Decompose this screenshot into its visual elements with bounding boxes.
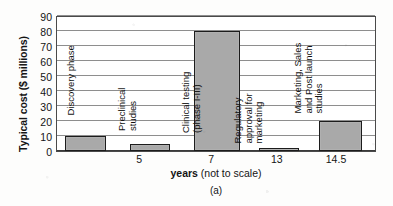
- y-tick-label-30: 30: [26, 102, 52, 113]
- y-tick-label-50: 50: [26, 72, 52, 83]
- y-tick-label-40: 40: [26, 87, 52, 98]
- x-axis-title-rest: (not to scale): [198, 167, 262, 179]
- bar-chart-figure: Typical cost ($ millions) 90807060504030…: [0, 0, 393, 206]
- bar-label-1: Preclinicalstudies: [117, 88, 138, 131]
- bar-label-4: Marketing, Salesand Post launchstudies: [293, 42, 325, 113]
- x-tick-label-14.5: 14.5: [326, 153, 346, 165]
- bar-label-2-line-0: Clinical testing: [181, 72, 192, 133]
- y-tick-label-70: 70: [26, 42, 52, 53]
- x-axis-tick-labels: 571314.5: [56, 153, 376, 167]
- y-tick-label-60: 60: [26, 57, 52, 68]
- bar-label-3-line-2: marketing: [253, 93, 264, 143]
- bar-label-0: Discovery phase: [66, 45, 77, 115]
- bar-label-1-line-1: studies: [128, 88, 139, 131]
- y-tick-label-80: 80: [26, 27, 52, 38]
- y-tick-label-20: 20: [26, 117, 52, 128]
- gridline-90: [57, 15, 375, 16]
- x-tick-label-5: 5: [136, 153, 142, 165]
- bar-label-2: Clinical testing(phase I-III): [181, 72, 202, 133]
- y-tick-label-0: 0: [26, 147, 52, 158]
- figure-caption: (a): [56, 185, 376, 196]
- bar-label-1-line-0: Preclinical: [117, 88, 128, 131]
- plot-area: Discovery phasePreclinicalstudiesClinica…: [56, 16, 376, 152]
- y-tick-label-90: 90: [26, 12, 52, 23]
- y-axis-tick-labels: 9080706050403020100: [26, 11, 52, 157]
- bar-label-4-line-2: studies: [314, 42, 325, 113]
- bar-1[interactable]: [130, 144, 170, 151]
- bar-label-2-line-1: (phase I-III): [191, 72, 202, 133]
- x-axis-title: years (not to scale): [56, 167, 376, 179]
- x-tick-label-7: 7: [208, 153, 214, 165]
- y-tick-label-10: 10: [26, 132, 52, 143]
- bar-4[interactable]: [319, 121, 362, 151]
- bar-label-3-line-0: Regulatory: [232, 93, 243, 143]
- bar-label-3: Regulatoryapproval formarketing: [232, 93, 264, 143]
- x-tick-label-13: 13: [271, 153, 283, 165]
- bar-0[interactable]: [65, 136, 106, 151]
- bar-label-0-line-0: Discovery phase: [66, 45, 77, 115]
- x-axis-title-bold: years: [170, 167, 197, 179]
- bar-3[interactable]: [259, 148, 299, 151]
